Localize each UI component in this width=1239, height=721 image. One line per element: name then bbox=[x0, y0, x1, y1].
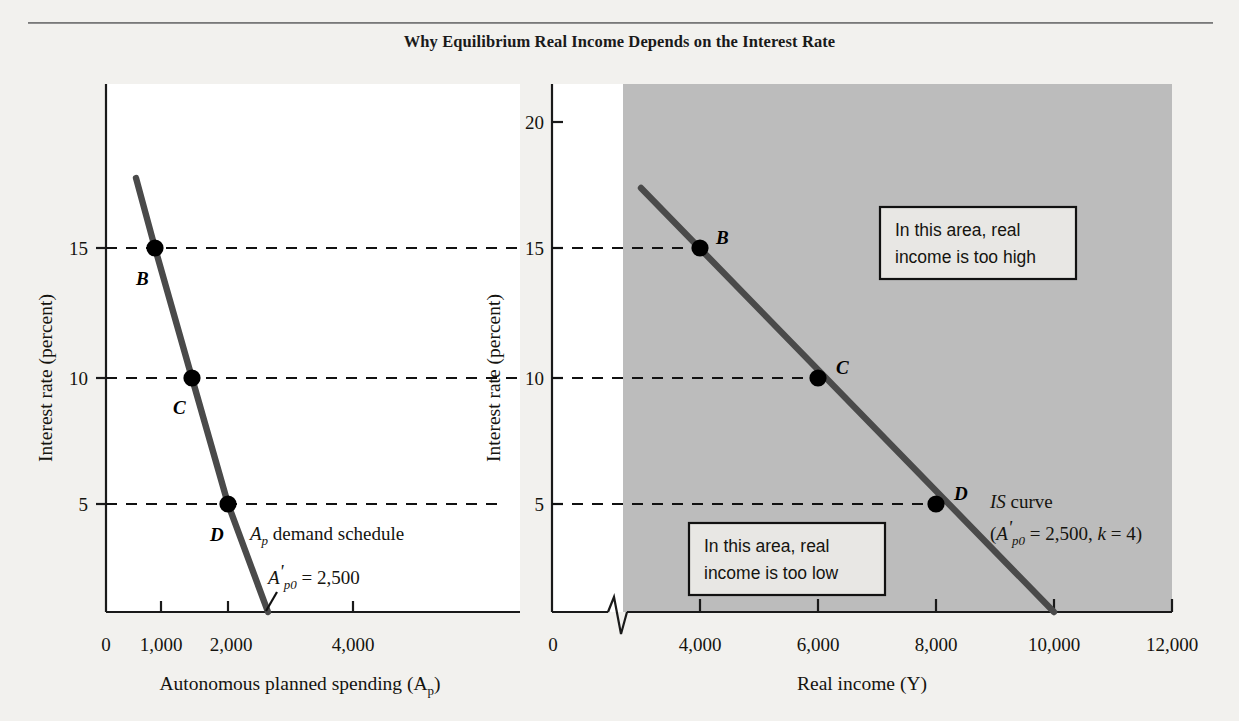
left-point-label-D: D bbox=[209, 524, 224, 545]
right-y-axis-title: Interest rate (percent) bbox=[483, 294, 505, 462]
figure-container: Why Equilibrium Real Income Depends on t… bbox=[0, 0, 1239, 721]
right-point-label-D: D bbox=[953, 483, 968, 504]
left-xtick-0: 0 bbox=[101, 634, 111, 655]
right-ytick-5: 5 bbox=[535, 494, 545, 515]
left-panel: 15 10 5 0 1,000 2,000 4,000 bbox=[35, 84, 520, 698]
left-ytick-15: 15 bbox=[69, 238, 88, 259]
right-xlabel-main: Real income ( bbox=[797, 673, 906, 695]
left-point-D bbox=[219, 495, 236, 512]
left-x-axis-title: Autonomous planned spending (Ap) bbox=[159, 673, 440, 698]
ap-symbol: A bbox=[248, 523, 262, 544]
is-params-sub: p0 bbox=[1011, 533, 1026, 548]
left-point-label-C: C bbox=[173, 397, 186, 418]
right-ytick-20: 20 bbox=[525, 112, 544, 133]
right-xlabel-symbol: Y bbox=[906, 673, 920, 694]
note-income-too-low: In this area, real income is too low bbox=[689, 523, 885, 595]
note-income-too-high: In this area, real income is too high bbox=[880, 207, 1076, 279]
right-xtick-6000: 6,000 bbox=[797, 634, 840, 655]
right-point-D bbox=[927, 495, 944, 512]
left-xtick-2000: 2,000 bbox=[210, 634, 253, 655]
left-xlabel-close: ) bbox=[434, 673, 441, 695]
left-ytick-10: 10 bbox=[69, 368, 88, 389]
right-point-B bbox=[691, 239, 708, 256]
left-xtick-1000: 1,000 bbox=[140, 634, 183, 655]
note-low-line2: income is too low bbox=[704, 563, 839, 583]
note-low-line1: In this area, real bbox=[704, 536, 829, 556]
is-params-symbol: A bbox=[994, 523, 1008, 544]
ap0-value: = 2,500 bbox=[297, 567, 360, 588]
right-point-C bbox=[809, 369, 826, 386]
right-xtick-0: 0 bbox=[548, 634, 558, 655]
right-point-label-C: C bbox=[836, 357, 849, 378]
is-params-mid: = 2,500, bbox=[1025, 523, 1097, 544]
is-curve-label-line1: IS curve bbox=[989, 491, 1053, 512]
note-high-line2: income is too high bbox=[895, 247, 1036, 267]
left-point-B bbox=[146, 239, 163, 256]
ap0-symbol: A bbox=[266, 567, 280, 588]
ap-label-text: demand schedule bbox=[268, 523, 404, 544]
right-xlabel-close: ) bbox=[920, 673, 927, 695]
figure-svg: 15 10 5 0 1,000 2,000 4,000 bbox=[0, 0, 1239, 721]
right-x-axis-title: Real income (Y) bbox=[797, 673, 927, 695]
left-y-ticks bbox=[96, 248, 106, 504]
is-curve-italic: IS bbox=[989, 491, 1006, 512]
right-point-label-B: B bbox=[715, 227, 729, 248]
right-ytick-10: 10 bbox=[525, 368, 544, 389]
right-plot-white-strip bbox=[552, 84, 623, 612]
right-ytick-15: 15 bbox=[525, 238, 544, 259]
right-panel: 20 15 10 5 0 4,000 6,000 8,000 10,000 12… bbox=[483, 84, 1198, 695]
left-point-C bbox=[183, 369, 200, 386]
right-xtick-4000: 4,000 bbox=[679, 634, 722, 655]
is-params-end: = 4) bbox=[1106, 523, 1142, 545]
is-curve-rest: curve bbox=[1006, 491, 1053, 512]
left-ytick-5: 5 bbox=[79, 494, 89, 515]
right-xtick-10000: 10,000 bbox=[1028, 634, 1080, 655]
note-high-line1: In this area, real bbox=[895, 220, 1020, 240]
right-xtick-8000: 8,000 bbox=[915, 634, 958, 655]
left-xlabel-main: Autonomous planned spending ( bbox=[159, 673, 413, 695]
right-xtick-12000: 12,000 bbox=[1146, 634, 1198, 655]
left-xlabel-symbol: A bbox=[413, 673, 427, 694]
left-xtick-4000: 4,000 bbox=[332, 634, 375, 655]
ap0-subscript: p0 bbox=[283, 577, 298, 592]
left-y-axis-title: Interest rate (percent) bbox=[35, 294, 57, 462]
left-point-label-B: B bbox=[135, 268, 149, 289]
